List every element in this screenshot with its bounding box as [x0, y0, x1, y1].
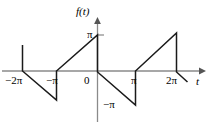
- x-tick-minus-two-pi-label: −2π: [5, 75, 22, 86]
- sawtooth-waveform-figure: f(t) π −π 0 −2π −π π 2π t: [0, 0, 212, 124]
- y-axis-arrowhead: [94, 17, 101, 24]
- x-tick-minus-pi-label: −π: [46, 75, 58, 86]
- x-tick-pi-label: π: [131, 75, 137, 86]
- y-axis-pi-label: π: [87, 29, 93, 40]
- origin-label: 0: [84, 75, 90, 86]
- function-label: f(t): [76, 6, 89, 17]
- y-axis-negative-pi-label: −π: [103, 99, 115, 110]
- x-axis-arrowhead: [199, 68, 206, 75]
- x-axis-variable-label: t: [196, 76, 199, 87]
- sawtooth-curve: [23, 33, 188, 105]
- x-tick-two-pi-label: 2π: [166, 75, 177, 86]
